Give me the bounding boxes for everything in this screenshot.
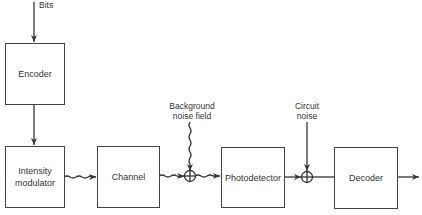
decoder-label: Decoder [349,172,383,184]
channel-label: Channel [112,171,146,183]
intensity-modulator-label: Intensity modulator [15,165,55,189]
bits-input-label: Bits [39,0,53,10]
encoder-label: Encoder [18,68,52,80]
photodetector-label: Photodetector [225,172,281,184]
channel-to-sum1-wavy-arrow [159,175,184,177]
photodetector-block: Photodetector [221,147,285,208]
summing-junction-2 [302,172,313,183]
intensity-modulator-block: Intensity modulator [5,146,65,208]
channel-block: Channel [97,146,160,208]
decoder-block: Decoder [334,147,398,209]
summing-junction-1 [185,171,196,182]
background-noise-wavy-arrow [189,122,191,171]
encoder-block: Encoder [5,43,65,105]
background-noise-label: Background noise field [164,101,220,121]
modulator-to-channel-wavy-arrow [64,176,96,178]
circuit-noise-label: Circuit noise [287,101,327,121]
sum1-to-photodetector-wavy-arrow [195,175,220,177]
